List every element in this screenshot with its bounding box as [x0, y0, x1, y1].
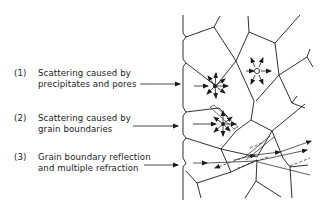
pointer-arrows [133, 84, 180, 165]
pore-scatter [246, 58, 271, 84]
grain-boundary-scatter [193, 105, 238, 136]
refraction-rays [193, 136, 311, 175]
grain-diagram [0, 0, 325, 207]
grain-boundaries [183, 15, 313, 200]
